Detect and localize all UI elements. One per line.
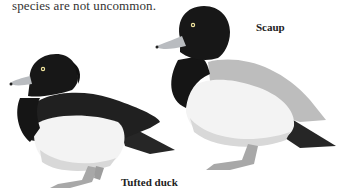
scaup-illustration [150, 0, 340, 194]
tufted-duck-caption: Tufted duck [121, 176, 178, 188]
scaup-caption: Scaup [256, 21, 285, 33]
body-text-line: species are not uncommon. [12, 0, 156, 14]
